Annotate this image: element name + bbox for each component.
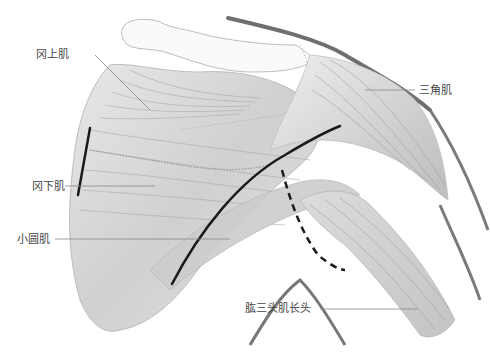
- skin-contour-arm: [440, 205, 480, 300]
- label-deltoid: 三角肌: [419, 85, 452, 97]
- deltoid-muscle: [270, 55, 448, 200]
- label-supraspinatus: 冈上肌: [36, 49, 69, 61]
- acromion-outline: [122, 19, 315, 72]
- label-teres-minor: 小圆肌: [17, 234, 50, 246]
- label-infraspinatus: 冈下肌: [32, 181, 65, 193]
- label-triceps-long-head: 肱三头肌长头: [245, 303, 311, 315]
- triceps-long-head-muscle: [300, 191, 455, 337]
- shoulder-diagram: 冈上肌 三角肌 冈下肌 小圆肌 肱三头肌长头: [0, 0, 490, 358]
